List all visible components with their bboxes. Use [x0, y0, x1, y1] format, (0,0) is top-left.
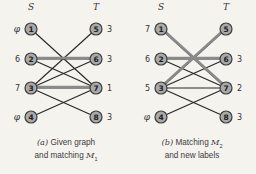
caption-b-line2: and new labels: [132, 149, 252, 162]
caption-a-prefix: (a): [37, 137, 48, 147]
node-7-label: 2: [237, 84, 242, 93]
node-1-number: 1: [158, 25, 163, 34]
caption-b-line1: (b) Matching M2: [132, 136, 252, 149]
node-4-number: 4: [28, 113, 33, 122]
graph-b: ST1726354φ5637283: [130, 0, 256, 130]
node-7-label: 1: [107, 84, 112, 93]
node-3-label: 7: [15, 84, 20, 93]
node-6-label: 3: [107, 55, 112, 64]
graph-a: ST1φ26374φ53637183: [0, 0, 128, 130]
node-6-number: 6: [223, 55, 228, 64]
node-2-number: 2: [158, 55, 163, 64]
node-2-label: 6: [145, 55, 150, 64]
node-4-label: φ: [144, 112, 151, 122]
node-2-number: 2: [28, 55, 33, 64]
caption-b-line1-sub: 2: [219, 143, 222, 149]
right-column-header: T: [223, 2, 230, 12]
node-8-label: 3: [237, 113, 242, 122]
node-8-number: 8: [223, 113, 228, 122]
node-4-label: φ: [14, 112, 21, 122]
left-column-header: S: [28, 2, 34, 12]
node-3-number: 3: [158, 84, 163, 93]
graph-b-svg: ST1726354φ5637283: [130, 0, 256, 130]
caption-a-line2-sub: 1: [94, 156, 97, 162]
right-column-header: T: [93, 2, 100, 12]
caption-b: (b) Matching M2 and new labels: [132, 136, 252, 162]
caption-b-prefix: (b): [162, 137, 174, 147]
node-5-number: 5: [223, 25, 228, 34]
node-6-number: 6: [93, 55, 98, 64]
node-6-label: 3: [237, 55, 242, 64]
node-5-label: 3: [107, 25, 112, 34]
caption-a: (a) Given graph and matching M1: [6, 136, 126, 162]
caption-a-line1-text: Given graph: [50, 138, 95, 147]
node-8-label: 3: [107, 113, 112, 122]
caption-a-line1: (a) Given graph: [6, 136, 126, 149]
node-1-label: φ: [14, 24, 21, 34]
node-2-label: 6: [15, 55, 20, 64]
left-column-header: S: [158, 2, 164, 12]
node-8-number: 8: [93, 113, 98, 122]
node-7-number: 7: [93, 84, 98, 93]
node-5-number: 5: [93, 25, 98, 34]
node-1-label: 7: [145, 25, 150, 34]
caption-a-line2-text: and matching: [35, 151, 84, 160]
caption-a-line2: and matching M1: [6, 149, 126, 162]
node-1-number: 1: [28, 25, 33, 34]
node-3-label: 5: [145, 84, 150, 93]
node-4-number: 4: [158, 113, 163, 122]
node-7-number: 7: [223, 84, 228, 93]
graph-a-svg: ST1φ26374φ53637183: [0, 0, 128, 130]
caption-b-line1-text: Matching: [175, 138, 208, 147]
node-3-number: 3: [28, 84, 33, 93]
caption-b-line2-text: and new labels: [165, 151, 220, 160]
